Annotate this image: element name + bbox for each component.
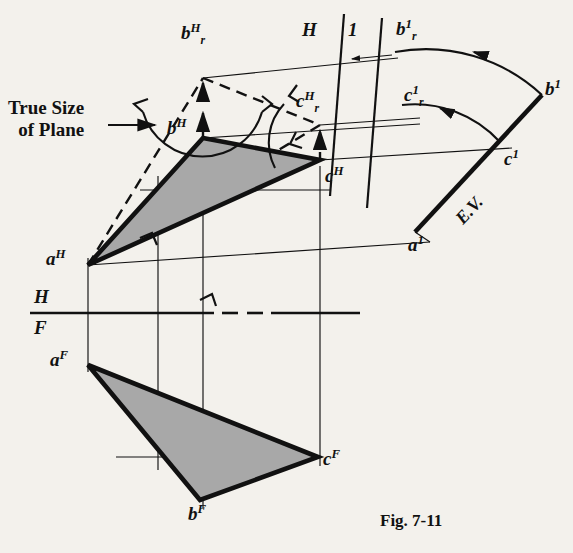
point-base: a (408, 234, 418, 255)
point-label-b-f: bF (188, 503, 206, 523)
figure-7-11: True Size of Plane H 1 H F E.V. aH bH cH… (0, 0, 573, 553)
point-base: a (50, 349, 60, 370)
point-superscript: H (333, 163, 343, 178)
point-base: b (188, 503, 198, 524)
true-size-line-2: of Plane (18, 119, 84, 140)
point-label-b-1: b1 (545, 78, 561, 98)
arc-arrow-b1 (474, 52, 487, 56)
point-subscript: r (314, 102, 319, 115)
point-superscript: 1 (555, 76, 561, 91)
figure-caption: Fig. 7-11 (380, 512, 442, 529)
point-label-a-h: aH (46, 248, 66, 268)
point-label-b-h: bH (167, 117, 187, 137)
orthographic-projection-drawing (0, 0, 573, 553)
point-superscript: H (56, 246, 66, 261)
arc-c1-to-cr1 (402, 104, 500, 142)
point-superscript: H (191, 20, 201, 35)
point-label-br-h: bHr (181, 22, 205, 47)
point-superscript: 1 (512, 146, 518, 161)
point-label-cr-h: cHr (296, 90, 319, 115)
point-superscript: F (60, 347, 69, 362)
fold-label-h-lower: H (34, 287, 49, 306)
fold-line-aux (367, 18, 382, 208)
point-label-c-1: c1 (504, 148, 519, 168)
arc-arrowheads (440, 52, 487, 114)
point-base: b (181, 22, 191, 43)
true-size-of-plane-note: True Size of Plane (8, 97, 84, 142)
point-label-a-f: aF (50, 349, 68, 369)
projector-arrow-br (352, 55, 392, 59)
point-label-c-f: cF (323, 448, 340, 468)
point-base: b (545, 78, 555, 99)
auxiliary-edge-view (415, 95, 542, 242)
point-superscript: 1 (412, 82, 418, 97)
projector-horizontal-a1 (88, 242, 430, 265)
point-label-a-1: a1 (408, 234, 424, 254)
fold-label-f-lower: F (34, 318, 47, 337)
true-size-line-1: True Size (8, 97, 84, 118)
point-superscript: 1 (406, 16, 412, 31)
point-label-cr-1: c1r (404, 84, 423, 109)
fold-label-h-top: H (302, 20, 317, 39)
point-superscript: 1 (418, 232, 424, 247)
tick-perp-arc-left (134, 99, 148, 112)
point-base: b (167, 117, 177, 138)
point-subscript: r (419, 96, 424, 109)
projector-brh-to-br1 (203, 58, 398, 78)
point-label-br-1: b1r (396, 18, 417, 43)
tick-perp-arc-right (262, 96, 272, 112)
point-label-c-h: cH (325, 165, 343, 185)
point-superscript: H (304, 88, 314, 103)
point-superscript: H (177, 115, 187, 130)
fold-label-1-top: 1 (348, 20, 358, 39)
point-superscript: F (331, 446, 340, 461)
point-subscript: r (201, 34, 206, 47)
point-base: a (46, 248, 56, 269)
point-superscript: F (198, 501, 207, 516)
point-base: b (396, 18, 406, 39)
point-subscript: r (412, 30, 417, 43)
tick-perp-lower (200, 294, 216, 306)
